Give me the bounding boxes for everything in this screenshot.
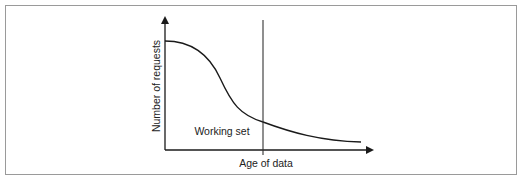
working-set-label: Working set [194, 125, 249, 137]
y-axis-label: Number of requests [150, 40, 162, 132]
x-axis-label: Age of data [239, 157, 293, 169]
working-set-diagram: Number of requests Working set Age of da… [0, 0, 523, 182]
